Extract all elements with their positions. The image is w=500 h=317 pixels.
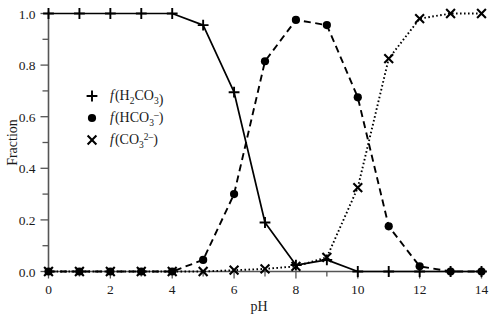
- legend-circle-marker: [88, 114, 96, 122]
- legend-entry-1: f(H2CO3): [87, 88, 164, 108]
- x-tick-label: 14: [475, 282, 489, 297]
- data-point-plus: [383, 266, 394, 277]
- data-point-circle: [416, 262, 424, 270]
- data-point-circle: [261, 57, 269, 65]
- data-point-circle: [446, 267, 454, 275]
- y-tick-label: 1.0: [19, 7, 36, 22]
- x-tick-label: 2: [107, 282, 114, 297]
- data-point-cross: [384, 54, 393, 63]
- x-axis-title: pH: [250, 299, 267, 314]
- legend-entry-3: f(CO32–): [88, 132, 159, 150]
- data-point-plus: [198, 20, 209, 31]
- data-point-circle: [354, 93, 362, 101]
- y-tick-label: 0.8: [19, 58, 36, 73]
- y-tick-label: 0.4: [19, 161, 36, 176]
- data-point-cross: [446, 9, 455, 18]
- data-point-plus: [136, 8, 147, 19]
- x-tick-label: 6: [231, 282, 238, 297]
- data-point-plus: [352, 266, 363, 277]
- x-tick-label: 12: [413, 282, 427, 297]
- data-point-plus: [167, 8, 178, 19]
- data-point-cross: [353, 183, 362, 192]
- x-tick-label: 0: [45, 282, 52, 297]
- data-point-cross: [477, 9, 486, 18]
- data-point-plus: [74, 8, 85, 19]
- data-point-plus: [87, 91, 98, 102]
- data-point-circle: [385, 222, 393, 230]
- carbonate-speciation-chart: 024681012140.00.20.40.60.81.0pHFraction …: [0, 0, 500, 317]
- y-tick-label: 0.2: [19, 213, 36, 228]
- data-point-plus: [43, 8, 54, 19]
- data-point-cross: [88, 136, 97, 145]
- legend-label: f(H2CO3): [110, 88, 164, 108]
- axis-layer: [41, 12, 484, 279]
- data-point-cross: [415, 14, 424, 23]
- data-point-plus: [229, 87, 240, 98]
- data-point-circle: [323, 21, 331, 29]
- data-point-circle: [88, 114, 96, 122]
- data-point-circle: [230, 190, 238, 198]
- data-point-circle: [477, 267, 485, 275]
- data-point-plus: [105, 8, 116, 19]
- x-tick-label: 10: [351, 282, 365, 297]
- x-tick-label: 8: [293, 282, 300, 297]
- data-point-circle: [292, 16, 300, 24]
- legend-entry-2: f(HCO3–): [88, 110, 164, 128]
- plot-svg: 024681012140.00.20.40.60.81.0pHFraction …: [0, 0, 500, 317]
- legend-label: f(HCO3–): [110, 110, 164, 128]
- legend-cross-marker: [88, 136, 97, 145]
- legend-layer: f(H2CO3)f(HCO3–)f(CO32–): [87, 88, 164, 150]
- data-point-circle: [199, 256, 207, 264]
- y-tick-label: 0.6: [19, 110, 36, 125]
- legend-label: f(CO32–): [110, 132, 158, 150]
- y-axis-title: Fraction: [5, 119, 20, 166]
- y-tick-label: 0.0: [19, 265, 36, 280]
- legend-plus-marker: [87, 91, 98, 102]
- x-tick-label: 4: [169, 282, 176, 297]
